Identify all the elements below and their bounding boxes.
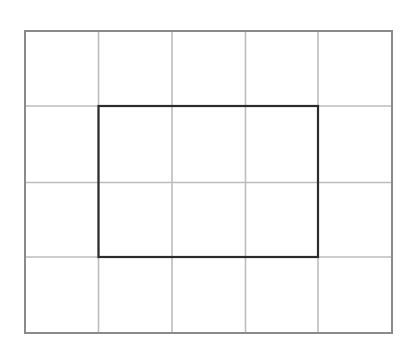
diagram-canvas bbox=[0, 0, 412, 344]
grid-diagram bbox=[0, 0, 412, 344]
grid-inner-lines bbox=[25, 31, 392, 333]
highlighted-rectangle bbox=[99, 106, 319, 257]
